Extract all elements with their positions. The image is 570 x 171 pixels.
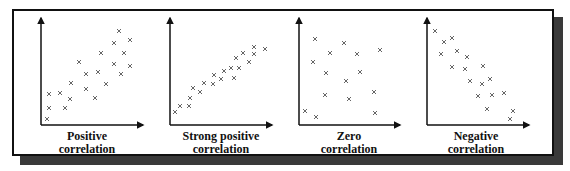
cross-marker-icon xyxy=(58,91,62,95)
cross-marker-icon xyxy=(372,90,376,94)
cross-marker-icon xyxy=(490,93,494,97)
cross-marker-icon xyxy=(122,51,126,55)
cross-marker-icon xyxy=(508,117,512,121)
cross-marker-icon xyxy=(237,66,241,70)
cross-marker-icon xyxy=(187,104,191,108)
cross-marker-icon xyxy=(347,97,351,101)
cross-marker-icon xyxy=(328,51,332,55)
cross-marker-icon xyxy=(442,40,446,44)
cross-marker-icon xyxy=(173,110,177,114)
cross-marker-icon xyxy=(191,86,195,90)
cross-marker-icon xyxy=(84,72,88,76)
cross-marker-icon xyxy=(119,72,123,76)
cross-marker-icon xyxy=(511,109,515,113)
cross-marker-icon xyxy=(355,52,359,56)
label-line-2: correlation xyxy=(289,143,409,156)
cross-marker-icon xyxy=(450,65,454,69)
cross-marker-icon xyxy=(433,29,437,33)
cross-marker-icon xyxy=(252,52,256,56)
cross-marker-icon xyxy=(488,77,492,81)
cross-marker-icon xyxy=(313,37,317,41)
cross-marker-icon xyxy=(222,69,226,73)
cross-marker-icon xyxy=(476,94,480,98)
label-line-2: correlation xyxy=(416,143,536,156)
cross-marker-icon xyxy=(378,48,382,52)
cross-marker-icon xyxy=(358,70,362,74)
scatter-panel-4 xyxy=(427,18,529,125)
cross-marker-icon xyxy=(502,91,506,95)
cross-marker-icon xyxy=(439,52,443,56)
label-line-2: correlation xyxy=(161,143,281,156)
cross-marker-icon xyxy=(468,79,472,83)
panel-label-zero: Zero correlation xyxy=(289,130,409,156)
cross-marker-icon xyxy=(463,67,467,71)
cross-marker-icon xyxy=(178,104,182,108)
cross-marker-icon xyxy=(69,81,73,85)
cross-marker-icon xyxy=(47,92,51,96)
cross-marker-icon xyxy=(342,41,346,45)
cross-marker-icon xyxy=(323,93,327,97)
cross-marker-icon xyxy=(211,82,215,86)
cross-marker-icon xyxy=(219,77,223,81)
scatter-panel-3 xyxy=(299,18,400,125)
cross-marker-icon xyxy=(112,62,116,66)
cross-marker-icon xyxy=(202,81,206,85)
cross-marker-icon xyxy=(99,51,103,55)
cross-marker-icon xyxy=(465,55,469,59)
cross-marker-icon xyxy=(93,96,97,100)
cross-marker-icon xyxy=(485,107,489,111)
cross-marker-icon xyxy=(128,64,132,68)
scatter-panel-1 xyxy=(41,18,143,125)
cross-marker-icon xyxy=(104,82,108,86)
label-line-2: correlation xyxy=(27,143,147,156)
cross-marker-icon xyxy=(212,73,216,77)
cross-marker-icon xyxy=(247,60,251,64)
cross-marker-icon xyxy=(232,76,236,80)
cross-marker-icon xyxy=(324,71,328,75)
cross-marker-icon xyxy=(480,82,484,86)
cross-marker-icon xyxy=(455,49,459,53)
cross-marker-icon xyxy=(234,56,238,60)
cross-marker-icon xyxy=(188,96,192,100)
panel-label-positive: Positive correlation xyxy=(27,130,147,156)
cross-marker-icon xyxy=(45,117,49,121)
cross-marker-icon xyxy=(241,51,245,55)
cross-marker-icon xyxy=(117,29,121,33)
cross-marker-icon xyxy=(450,36,454,40)
cross-marker-icon xyxy=(128,38,132,42)
cross-marker-icon xyxy=(481,64,485,68)
cross-marker-icon xyxy=(63,106,67,110)
cross-marker-icon xyxy=(229,66,233,70)
cross-marker-icon xyxy=(47,106,51,110)
panel-label-negative: Negative correlation xyxy=(416,130,536,156)
cross-marker-icon xyxy=(198,90,202,94)
scatter-panel-2 xyxy=(170,18,272,125)
cross-marker-icon xyxy=(84,87,88,91)
cross-marker-icon xyxy=(311,60,315,64)
cross-marker-icon xyxy=(373,111,377,115)
cross-marker-icon xyxy=(77,60,81,64)
cross-marker-icon xyxy=(96,70,100,74)
cross-marker-icon xyxy=(112,41,116,45)
cross-marker-icon xyxy=(344,79,348,83)
cross-marker-icon xyxy=(68,97,72,101)
cross-marker-icon xyxy=(252,45,256,49)
cross-marker-icon xyxy=(303,109,307,113)
cross-marker-icon xyxy=(263,47,267,51)
cross-marker-icon xyxy=(314,115,318,119)
panel-label-strong-positive: Strong positive correlation xyxy=(161,130,281,156)
